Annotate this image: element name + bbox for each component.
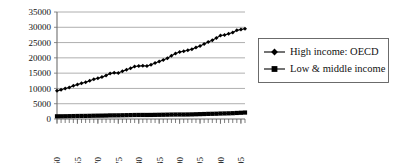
diamond-marker-icon [210,38,214,42]
square-marker-icon [182,112,186,116]
diamond-marker-icon [137,64,141,68]
legend-label-1: Low & middle income [290,63,386,74]
y-axis-tick-labels: 05000100001500020000250003000035000 [29,7,52,124]
square-marker-icon [63,114,67,118]
square-marker-icon [218,111,222,115]
y-tick-label: 10000 [29,84,52,94]
square-marker-icon [157,113,161,117]
diamond-marker-icon [55,89,59,93]
y-tick-label: 15000 [29,68,52,78]
x-tick-label: 1990 [175,157,185,164]
square-marker-icon [190,112,194,116]
y-tick-label: 25000 [29,38,52,48]
square-marker-icon [231,111,235,115]
x-tick-label: 2000 [216,157,226,164]
diamond-marker-icon [104,74,108,78]
square-marker-icon [137,113,141,117]
square-marker-icon [169,112,173,116]
square-marker-icon [108,113,112,117]
x-tick-label: 1995 [195,157,205,164]
legend-label-0: High income: OECD [290,46,379,57]
diamond-marker-icon [88,79,92,83]
diamond-marker-icon [71,84,75,88]
diamond-marker-icon [227,32,231,36]
square-marker-icon [55,114,59,118]
square-marker-icon [243,110,247,114]
square-marker-icon [206,112,210,116]
diamond-marker-icon [124,68,128,72]
x-tick-label: 1970 [93,157,103,164]
diamond-marker-icon [206,40,210,44]
square-marker-icon [198,112,202,116]
square-marker-icon [153,113,157,117]
square-marker-icon [59,114,63,118]
diamond-marker-icon [190,47,194,51]
square-marker-icon [210,112,214,116]
square-marker-icon [186,112,190,116]
x-axis [57,119,245,124]
y-tick-label: 30000 [29,22,52,32]
diamond-marker-icon [100,75,104,79]
square-marker-icon [96,114,100,118]
square-marker-icon [79,114,83,118]
square-marker-icon [128,113,132,117]
square-marker-icon [141,113,145,117]
diamond-marker-icon [153,61,157,65]
square-marker-icon [214,112,218,116]
series-high-income-oecd [55,27,247,93]
square-marker-icon [133,113,137,117]
square-marker-icon [235,111,239,115]
square-marker-icon [222,111,226,115]
diamond-marker-icon [63,87,67,91]
legend: High income: OECD Low & middle income [259,39,389,83]
x-axis-tick-labels: 1960196519701975198019851990199520002005 [52,157,246,164]
y-tick-label: 5000 [33,99,52,109]
diamond-marker-icon [92,77,96,81]
chart-figure: 05000100001500020000250003000035000 1960… [0,0,396,163]
x-tick-label: 2005 [236,157,246,164]
diamond-marker-icon [67,86,71,90]
gridlines [57,12,245,104]
square-marker-icon [194,112,198,116]
diamond-marker-icon [231,30,235,34]
diamond-marker-icon [75,83,79,87]
diamond-marker-icon [194,45,198,49]
diamond-marker-icon [178,50,182,54]
y-tick-label: 20000 [29,53,52,63]
x-tick-label: 1965 [73,157,83,164]
square-marker-icon [173,112,177,116]
diamond-marker-icon [235,28,239,32]
diamond-marker-icon [96,76,100,80]
diamond-marker-icon [186,48,190,52]
diamond-marker-icon [120,69,124,73]
x-tick-label: 1975 [114,157,124,164]
diamond-marker-icon [161,58,165,62]
square-marker-icon [145,113,149,117]
square-marker-icon [112,113,116,117]
square-marker-icon [165,113,169,117]
diamond-marker-icon [133,64,137,68]
diamond-marker-icon [116,71,120,75]
square-marker-icon [71,114,75,118]
square-marker-icon [88,114,92,118]
square-marker-icon [202,112,206,116]
diamond-marker-icon [145,64,149,68]
x-tick-label: 1985 [155,157,165,164]
square-marker-icon [124,113,128,117]
x-tick-label: 1960 [52,157,62,164]
y-tick-label: 0 [47,114,52,124]
square-marker-icon [272,66,278,72]
diamond-marker-icon [141,64,145,68]
diamond-marker-icon [129,66,133,70]
square-marker-icon [161,113,165,117]
series-low-middle-income [55,110,247,118]
square-marker-icon [75,114,79,118]
square-marker-icon [100,114,104,118]
square-marker-icon [116,113,120,117]
square-marker-icon [104,113,108,117]
diamond-marker-icon [80,81,84,85]
diamond-marker-icon [174,52,178,56]
square-marker-icon [67,114,71,118]
x-tick-label: 1980 [134,157,144,164]
square-marker-icon [92,114,96,118]
